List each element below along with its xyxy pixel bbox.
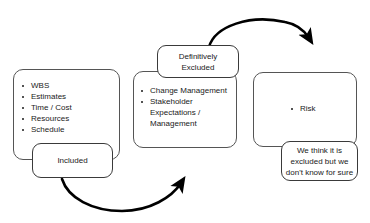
arrow-included-to-excluded [62, 179, 181, 211]
included-label: Included [57, 155, 87, 166]
list-item: Resources [22, 113, 114, 124]
list-item-continuation: Expectations / [141, 107, 235, 118]
list-item-continuation: Management [141, 118, 235, 129]
included-label-box[interactable]: Included [32, 143, 113, 178]
list-item: Schedule [22, 124, 114, 135]
list-item: Change Management [141, 85, 235, 96]
list-item: WBS [22, 80, 114, 91]
excluded-label-box[interactable]: Definitively Excluded [157, 45, 239, 78]
risk-caption-box[interactable]: We think it is excluded but we don't kno… [281, 141, 358, 181]
arrow-excluded-to-risk [209, 20, 309, 47]
list-item: Risk [291, 103, 355, 114]
risk-caption-label: We think it is excluded but we don't kno… [286, 145, 353, 178]
diagram-canvas: WBS Estimates Time / Cost Resources Sche… [0, 0, 370, 223]
excluded-label: Definitively Excluded [179, 51, 218, 73]
excluded-items-list: Change Management Stakeholder Expectatio… [141, 85, 235, 129]
list-item: Stakeholder [141, 96, 235, 107]
risk-items-list: Risk [291, 103, 355, 114]
included-items-list: WBS Estimates Time / Cost Resources Sche… [22, 80, 114, 135]
list-item: Time / Cost [22, 102, 114, 113]
list-item: Estimates [22, 91, 114, 102]
